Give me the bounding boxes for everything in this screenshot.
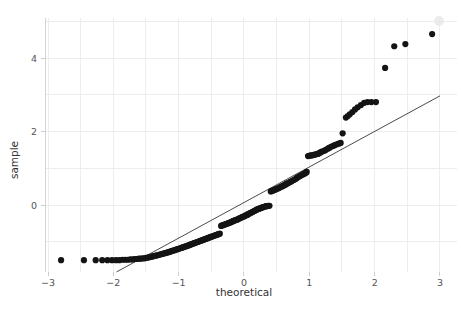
- scatter-point: [373, 99, 379, 105]
- scatter-point: [217, 231, 223, 237]
- x-tick-label: −2: [106, 277, 120, 288]
- scatter-point: [429, 31, 435, 37]
- scatter-point: [340, 130, 346, 136]
- x-tick-label: −3: [41, 277, 55, 288]
- scatter-point: [266, 203, 272, 209]
- y-tick-label: 2: [31, 126, 37, 137]
- scatter-point: [338, 140, 344, 146]
- y-tick-label: 0: [31, 200, 37, 211]
- x-tick-label: 2: [372, 277, 378, 288]
- scatter-point: [304, 169, 310, 175]
- y-tick-label: 4: [31, 53, 37, 64]
- scatter-point: [81, 257, 87, 263]
- scatter-point: [382, 65, 388, 71]
- scatter-point: [93, 257, 99, 263]
- x-tick-label: 1: [306, 277, 312, 288]
- qq-plot-figure: −3−2−10123 024 theoretical sample: [0, 0, 461, 314]
- x-axis-label: theoretical: [216, 286, 272, 298]
- plot-canvas: −3−2−10123 024 theoretical sample: [0, 0, 461, 314]
- x-tick-label: −1: [172, 277, 186, 288]
- x-tick-label: 3: [437, 277, 443, 288]
- scatter-point: [402, 41, 408, 47]
- y-axis-label: sample: [8, 141, 20, 179]
- scatter-point: [58, 257, 64, 263]
- scatter-point: [391, 43, 397, 49]
